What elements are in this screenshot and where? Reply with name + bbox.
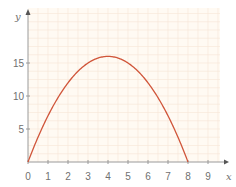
- y-tick-label: 10: [13, 91, 25, 102]
- x-tick-label: 0: [25, 171, 31, 182]
- x-tick-label: 1: [45, 171, 51, 182]
- x-tick-label: 8: [185, 171, 191, 182]
- x-tick-label: 2: [65, 171, 71, 182]
- x-tick-label: 5: [125, 171, 131, 182]
- x-tick-label: 9: [205, 171, 211, 182]
- y-tick-label: 5: [18, 124, 24, 135]
- plot-background: [28, 8, 220, 162]
- x-axis-label: x: [226, 171, 232, 182]
- y-tick-label: 15: [13, 58, 25, 69]
- x-axis-arrow-icon: [224, 160, 229, 165]
- parabola-chart: 012345678951015 x y: [0, 0, 236, 187]
- x-tick-label: 6: [145, 171, 151, 182]
- x-tick-label: 4: [105, 171, 111, 182]
- x-tick-label: 3: [85, 171, 91, 182]
- y-axis-label: y: [14, 11, 21, 22]
- x-tick-label: 7: [165, 171, 171, 182]
